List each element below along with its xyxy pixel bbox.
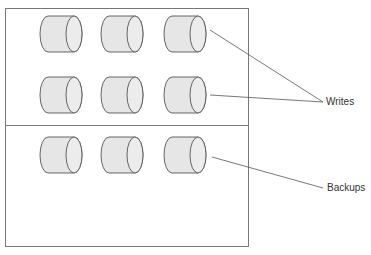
- backups-label: Backups: [327, 182, 365, 194]
- storage-diagram: [0, 0, 371, 255]
- disk-cylinder-icon: [164, 77, 206, 113]
- connector-lines: [210, 30, 323, 188]
- disk-cylinders: [40, 16, 206, 173]
- disk-cylinder-icon: [40, 137, 82, 173]
- writes-label: Writes: [326, 96, 354, 108]
- disk-cylinder-icon: [40, 77, 82, 113]
- disk-cylinder-icon: [164, 137, 206, 173]
- disk-cylinder-icon: [101, 77, 143, 113]
- disk-cylinder-icon: [164, 16, 206, 52]
- writes-connector-line: [210, 30, 323, 102]
- disk-cylinder-icon: [101, 137, 143, 173]
- writes-connector-line: [210, 95, 323, 102]
- disk-cylinder-icon: [40, 16, 82, 52]
- backups-connector-line: [212, 157, 323, 188]
- disk-cylinder-icon: [101, 16, 143, 52]
